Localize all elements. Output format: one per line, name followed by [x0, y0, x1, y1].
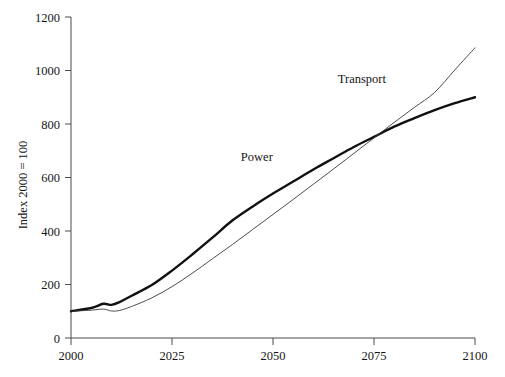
series-label-power: Power [241, 150, 274, 164]
series-line-power [71, 97, 475, 311]
x-tick-label: 2025 [160, 349, 185, 363]
series-label-transport: Transport [338, 72, 387, 86]
y-tick-label: 600 [41, 171, 60, 185]
line-chart-svg: 020040060080010001200 200020252050207521… [0, 0, 505, 377]
y-tick-label: 1200 [35, 11, 60, 25]
y-tick-label: 800 [41, 118, 60, 132]
x-tick-label: 2100 [463, 349, 488, 363]
x-tick-label: 2075 [362, 349, 387, 363]
series-paths [71, 48, 475, 311]
series-line-transport [71, 48, 475, 311]
y-tick-label: 200 [41, 278, 60, 292]
y-axis-tick-labels: 020040060080010001200 [35, 11, 60, 346]
x-tick-label: 2000 [59, 349, 84, 363]
x-axis-tick-labels: 20002025205020752100 [59, 349, 488, 363]
y-axis-title: Index 2000 = 100 [16, 141, 30, 230]
x-tick-label: 2050 [261, 349, 286, 363]
y-tick-label: 400 [41, 225, 60, 239]
x-axis-ticks [71, 338, 475, 345]
y-tick-label: 1000 [35, 64, 60, 78]
y-axis-ticks [65, 17, 71, 338]
chart-figure: 020040060080010001200 200020252050207521… [0, 0, 505, 377]
series-annotations: TransportPower [241, 72, 387, 164]
y-tick-label: 0 [54, 332, 60, 346]
